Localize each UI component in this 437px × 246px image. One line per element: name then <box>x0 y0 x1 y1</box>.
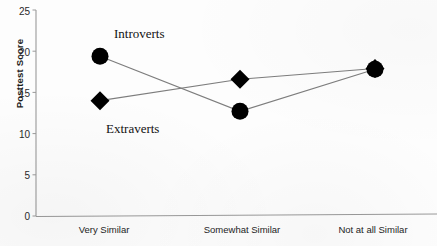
series-markers <box>91 48 385 120</box>
marker-introverts-0 <box>92 48 109 65</box>
marker-extraverts-2 <box>366 59 385 78</box>
marker-extraverts-1 <box>231 70 250 89</box>
plot-area <box>0 0 437 246</box>
marker-extraverts-0 <box>91 91 110 110</box>
chart-figure: Posttest Score 25 20 15 10 5 0 Very Simi… <box>0 0 437 246</box>
marker-introverts-1 <box>232 103 249 120</box>
